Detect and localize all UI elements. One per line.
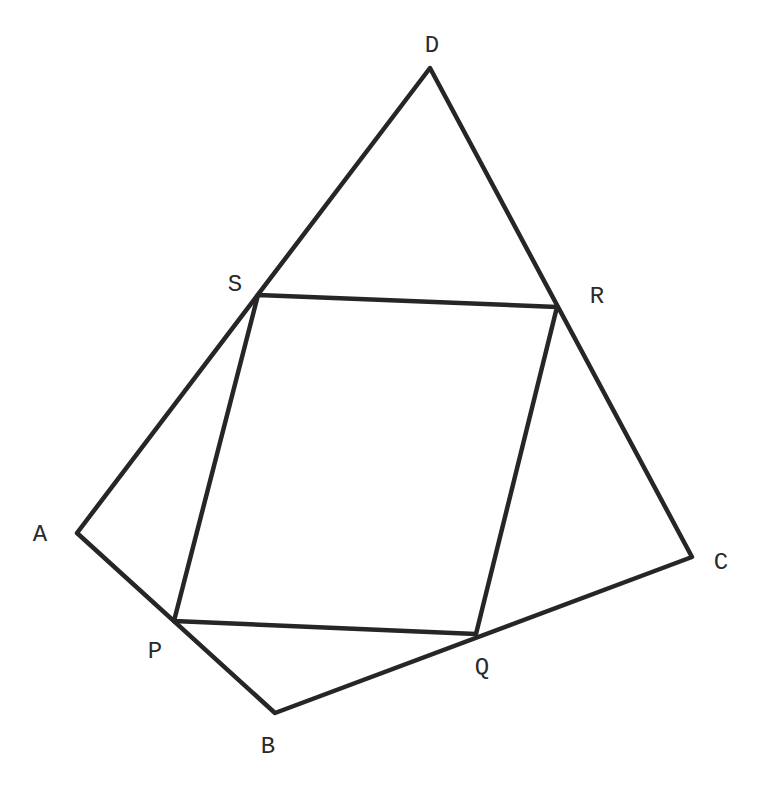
vertex-label-b: B [261,733,275,760]
vertex-label-c: C [714,549,728,576]
geometry-diagram: A B C D P Q R S [0,0,758,786]
vertex-label-r: R [590,283,604,310]
vertex-label-q: Q [475,654,489,681]
vertex-label-a: A [33,521,48,548]
inner-quadrilateral-pqrs [174,295,557,634]
vertex-label-s: S [228,271,242,298]
vertex-label-d: D [425,32,439,59]
vertex-label-p: P [148,638,162,665]
outer-quadrilateral-abcd [77,68,692,713]
